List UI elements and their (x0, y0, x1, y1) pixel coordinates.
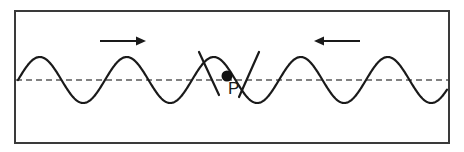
wave-diagram-figure: P (0, 0, 464, 152)
point-p-label: P (228, 80, 239, 97)
wave-diagram-canvas (0, 0, 464, 152)
